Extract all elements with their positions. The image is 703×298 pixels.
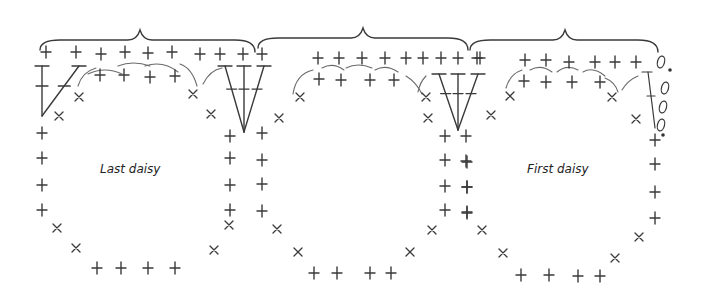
plus-stitch-icon <box>516 269 526 281</box>
plus-stitch-icon <box>332 267 342 279</box>
cross-stitch-icon <box>210 246 218 254</box>
plus-stitch-icon <box>389 74 399 86</box>
treble-stitch-icon <box>439 74 458 130</box>
plus-stitch-icon <box>564 56 574 68</box>
plus-stitch-icon <box>650 186 660 198</box>
cross-stitch-icon <box>608 93 616 101</box>
plus-stitch-icon <box>238 48 248 60</box>
label-last-daisy: Last daisy <box>100 162 160 176</box>
plus-stitch-icon <box>37 127 47 139</box>
plus-stitch-icon <box>590 56 600 68</box>
cross-stitch-icon <box>75 93 83 101</box>
cross-stitch-icon <box>487 111 495 119</box>
chain-arc-icon <box>293 70 313 94</box>
plus-stitch-icon <box>595 270 605 282</box>
plus-stitch-icon <box>334 52 344 64</box>
plus-stitch-icon <box>37 152 47 164</box>
cross-stitch-icon <box>273 225 281 233</box>
plus-stitch-icon <box>37 179 47 191</box>
cross-stitch-icon <box>424 114 432 122</box>
cross-stitch-icon <box>294 248 302 256</box>
cross-stitch-icon <box>207 110 215 118</box>
plus-stitch-icon <box>610 56 620 68</box>
chain-arc-icon <box>322 65 344 70</box>
plus-stitch-icon <box>92 262 102 274</box>
plus-stitch-icon <box>225 179 235 191</box>
plus-stitch-icon <box>573 270 583 282</box>
plus-stitch-icon <box>365 74 375 86</box>
chain-arc-icon <box>583 70 605 76</box>
cross-stitch-icon <box>296 93 304 101</box>
plus-stitch-icon <box>401 52 411 64</box>
chain-arc-icon <box>605 78 618 92</box>
plus-stitch-icon <box>380 52 390 64</box>
cross-stitch-icon <box>406 248 414 256</box>
chain-arc-icon <box>622 76 638 90</box>
plus-stitch-icon <box>41 46 51 58</box>
plus-stitch-icon <box>365 267 375 279</box>
plus-stitch-icon <box>143 47 153 59</box>
plus-stitch-icon <box>143 262 153 274</box>
plus-stitch-icon <box>314 73 324 85</box>
plus-stitch-icon <box>309 267 319 279</box>
plus-stitch-icon <box>195 48 205 60</box>
plus-stitch-icon <box>418 52 428 64</box>
brace-icon <box>470 30 658 52</box>
plus-stitch-icon <box>257 205 267 217</box>
chain-oval-icon <box>656 118 666 131</box>
treble-stitch-icon <box>458 74 478 130</box>
cross-stitch-icon <box>499 249 507 257</box>
cross-stitch-icon <box>611 254 619 262</box>
treble-stitch-icon <box>244 66 264 132</box>
plus-stitch-icon <box>225 204 235 216</box>
cross-stitch-icon <box>53 224 61 232</box>
plus-stitch-icon <box>145 71 155 83</box>
plus-stitch-icon <box>257 154 267 166</box>
plus-stitch-icon <box>440 204 450 216</box>
chain-stitch-symbols <box>656 55 672 137</box>
chain-oval-icon <box>660 81 670 94</box>
slip-stitch-dot-icon <box>668 68 672 72</box>
plus-stitch-icon <box>225 130 235 142</box>
plus-stitch-icon <box>313 52 323 64</box>
plus-stitch-icon <box>257 127 267 139</box>
crochet-chart <box>0 0 703 298</box>
chain-arc-icon <box>557 67 578 72</box>
plus-stitch-icon <box>386 267 396 279</box>
cross-stitch-icon <box>275 114 283 122</box>
plus-stitch-icon <box>440 154 450 166</box>
plus-stitch-icon <box>225 152 235 164</box>
cross-stitch-icon <box>632 115 640 123</box>
cross-stitch-icon <box>189 90 197 98</box>
plus-stitch-icon <box>453 52 463 64</box>
single-crochet-symbols <box>53 90 643 262</box>
plus-stitch-icon <box>170 262 180 274</box>
slip-stitch-dot-icon <box>661 133 665 137</box>
plus-stitch-icon <box>650 158 660 170</box>
plus-stitch-icon <box>440 130 450 142</box>
plus-stitch-icon <box>120 46 130 58</box>
chain-arc-icon <box>180 64 197 86</box>
chain-arc-icon <box>203 68 222 84</box>
chain-arc-icon <box>78 68 96 86</box>
plus-stitch-icon <box>461 155 471 167</box>
chain-arc-icon <box>375 67 398 72</box>
plus-stitch-icon <box>519 75 529 87</box>
label-first-daisy: First daisy <box>527 162 589 176</box>
plus-stitch-icon <box>167 46 177 58</box>
treble-stitch-icon <box>42 66 79 116</box>
cross-stitch-icon <box>55 112 63 120</box>
plus-stitch-icon <box>462 156 472 168</box>
plus-stitch-icon <box>96 48 106 60</box>
cross-stitch-icon <box>72 244 80 252</box>
plus-stitch-icon <box>541 76 551 88</box>
chain-arc-icon <box>346 65 372 68</box>
plus-stitch-icon <box>37 204 47 216</box>
plus-stitch-icon <box>461 130 471 142</box>
plus-stitch-icon <box>257 48 267 60</box>
brace-group <box>40 28 658 52</box>
treble-fan-group <box>218 66 485 132</box>
cross-stitch-icon <box>635 233 643 241</box>
chain-arc-icon <box>88 70 122 74</box>
cross-stitch-icon <box>422 93 430 101</box>
